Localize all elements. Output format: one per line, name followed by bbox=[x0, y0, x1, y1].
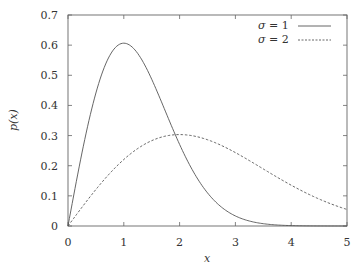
x-tick-label: 5 bbox=[344, 236, 351, 249]
x-tick-label: 4 bbox=[288, 236, 295, 249]
legend-label-sigma-2: σ = 2 bbox=[258, 33, 289, 46]
y-axis-label: p(x) bbox=[7, 109, 20, 131]
rayleigh-chart: 00.10.20.30.40.50.60.7 012345 x p(x) σ =… bbox=[0, 0, 355, 272]
series-line-sigma-1 bbox=[68, 43, 347, 226]
legend: σ = 1 σ = 2 bbox=[258, 19, 331, 46]
y-tick-label: 0.4 bbox=[41, 99, 59, 112]
series-layer bbox=[68, 43, 347, 226]
legend-label-sigma-1: σ = 1 bbox=[258, 19, 289, 32]
y-tick-label: 0.5 bbox=[41, 69, 59, 82]
y-tick-label: 0.6 bbox=[41, 39, 59, 52]
plot-border bbox=[68, 15, 347, 226]
y-tick-label: 0 bbox=[51, 220, 58, 233]
y-tick-label: 0.1 bbox=[41, 190, 59, 203]
x-tick-label: 1 bbox=[120, 236, 127, 249]
y-tick-label: 0.7 bbox=[41, 9, 59, 22]
x-tick-label: 0 bbox=[65, 236, 72, 249]
plot-frame bbox=[68, 15, 347, 226]
x-axis-label: x bbox=[204, 252, 211, 265]
y-tick-label: 0.2 bbox=[41, 160, 59, 173]
y-tick-label: 0.3 bbox=[41, 130, 59, 143]
x-tick-label: 2 bbox=[176, 236, 183, 249]
x-tick-label: 3 bbox=[232, 236, 239, 249]
series-line-sigma-2 bbox=[68, 135, 347, 226]
y-axis-ticks: 00.10.20.30.40.50.60.7 bbox=[41, 9, 348, 233]
x-axis-ticks: 012345 bbox=[65, 15, 351, 249]
